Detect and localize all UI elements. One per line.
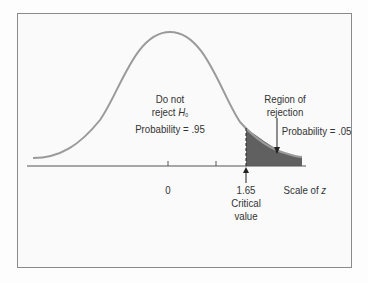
tick-label-zero: 0 <box>159 184 177 197</box>
accept-label-line2: reject H0 <box>144 106 197 122</box>
tick-label-critical: 1.65 <box>233 184 259 197</box>
critical-label-line2: value <box>228 210 263 223</box>
critical-arrow-head <box>243 167 249 173</box>
scale-label: Scale of z <box>284 184 337 197</box>
accept-label-line1: Do not <box>144 93 197 106</box>
rejection-probability-label: Probability = .05 <box>282 125 352 138</box>
critical-label-line1: Critical <box>228 197 263 210</box>
accept-probability-label: Probability = .95 <box>130 123 209 136</box>
normal-curve-plot <box>0 0 368 283</box>
rejection-label-line1: Region of <box>259 93 312 106</box>
rejection-label-line2: rejection <box>259 106 312 119</box>
